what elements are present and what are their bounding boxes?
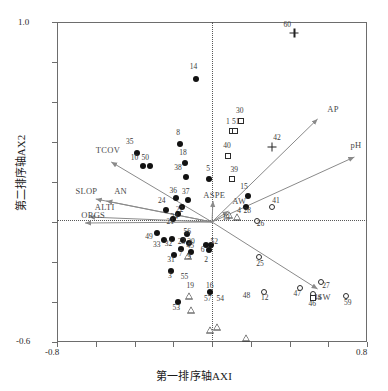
x-axis-tick (251, 342, 252, 347)
data-point-label: 47 (294, 290, 302, 298)
data-point-label: 28 (244, 207, 252, 215)
data-point (185, 293, 193, 300)
xtick-label-right: 0.8 (356, 347, 367, 357)
data-point-label: 39 (231, 166, 239, 174)
data-point-label: 53 (172, 304, 180, 312)
triangle-inner (243, 336, 249, 341)
data-point-label: 41 (272, 197, 280, 205)
env-vector-label-aspe: ASPE (203, 190, 225, 200)
data-point (177, 141, 183, 147)
data-point-label: 42 (273, 134, 281, 142)
env-vector-label-slop: SLOP (75, 186, 97, 196)
x-axis-tick (290, 342, 291, 347)
data-point (163, 207, 169, 213)
data-point-label: 23 (178, 238, 186, 246)
data-point-label: 31 (167, 256, 175, 264)
env-vector-label-sw: SW (318, 292, 331, 302)
env-vector-label-aw: AW (232, 196, 246, 206)
data-point (206, 176, 212, 182)
env-vector-label-ap: AP (327, 104, 338, 114)
data-point-label: 12 (261, 294, 269, 302)
x-axis-tick (96, 342, 97, 347)
x-axis-tick (173, 342, 174, 347)
data-point-label: 35 (126, 138, 134, 146)
data-point (185, 197, 191, 203)
data-point-label: 19 (187, 282, 195, 290)
data-point-label: 52 (211, 238, 219, 246)
data-point (232, 128, 238, 134)
data-point-label: 57 (204, 295, 212, 303)
y-axis-tick (52, 22, 57, 23)
ytick-label-bottom: -0.6 (16, 336, 30, 346)
y-axis-tick (52, 182, 57, 183)
data-point (290, 29, 299, 38)
data-point (268, 143, 277, 152)
data-point-label: 4 (237, 207, 241, 215)
ordination-biplot: 1460358105018385301514039422437362234211… (0, 0, 388, 391)
x-axis-tick (212, 342, 213, 347)
data-point-label: 15 (240, 183, 248, 191)
data-point-label: 40 (223, 142, 231, 150)
y-axis-label: 第二排序轴AX2 (12, 103, 28, 243)
data-point-label: 32 (165, 240, 173, 248)
data-point-label: 25 (256, 260, 264, 268)
x-axis-tick (135, 342, 136, 347)
data-point (242, 335, 250, 342)
y-axis-tick (52, 222, 57, 223)
data-point (225, 153, 231, 159)
env-vector-label-ph: pH (351, 140, 362, 150)
ytick-label-top: 1.0 (18, 17, 29, 27)
triangle-inner (214, 325, 220, 330)
data-point (187, 307, 195, 314)
y-axis-tick (52, 142, 57, 143)
triangle-inner (234, 215, 240, 220)
data-point-label: 7 (179, 250, 183, 258)
data-point-label: 3 (168, 272, 172, 280)
data-point-label: 50 (141, 154, 149, 162)
env-vector-label-orgs: ORGS (81, 210, 105, 220)
data-point-label: 54 (216, 295, 224, 303)
data-point (182, 160, 188, 166)
zero-line-horizontal (57, 220, 367, 221)
data-point (173, 195, 179, 201)
env-vector-label-tcov: TCOV (96, 145, 120, 155)
y-axis-tick (52, 262, 57, 263)
data-point-label: 8 (176, 129, 180, 137)
data-point-label: 36 (170, 187, 178, 195)
data-point-label: 9 (187, 253, 191, 261)
data-point-label: 37 (182, 188, 190, 196)
data-point-label: 48 (243, 292, 251, 300)
data-point-label: 60 (283, 21, 291, 29)
x-axis-label: 第一排序轴AXI (0, 367, 388, 383)
x-axis-tick (328, 342, 329, 347)
data-point-label: 24 (158, 197, 166, 205)
data-point-label: 27 (322, 282, 330, 290)
data-point-label: 46 (309, 300, 317, 308)
data-point-label: 56 (183, 228, 191, 236)
data-point-label: 51 (232, 118, 240, 126)
data-point-label: 16 (206, 282, 214, 290)
env-vector-label-an: AN (114, 186, 127, 196)
data-point-label: 26 (257, 220, 265, 228)
data-point-label: 55 (181, 273, 189, 281)
data-point-label: 21 (167, 218, 175, 226)
data-point-label: 6 (201, 246, 205, 254)
data-point-label: 10 (131, 154, 139, 162)
data-point (154, 230, 160, 236)
data-point (229, 176, 235, 182)
data-point (140, 163, 146, 169)
data-point-label: 1 (226, 118, 230, 126)
y-axis-tick (52, 302, 57, 303)
data-point-label: 14 (190, 63, 198, 71)
triangle-inner (188, 308, 194, 313)
triangle-inner (186, 294, 192, 299)
data-point-label: 49 (145, 233, 153, 241)
data-point-label: 18 (179, 149, 187, 157)
data-point (206, 327, 214, 334)
data-point-label: 33 (153, 241, 161, 249)
data-point-label: 30 (236, 107, 244, 115)
y-axis-tick (52, 342, 57, 343)
data-point-label: 59 (344, 299, 352, 307)
data-point-label: 13 (222, 214, 230, 222)
data-point-label: 5 (206, 165, 210, 173)
